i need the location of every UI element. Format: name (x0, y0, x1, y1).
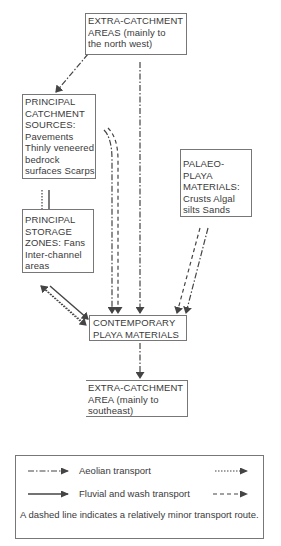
node-text: PRINCIPAL (25, 96, 93, 108)
node-text: CONTEMPORARY (93, 317, 183, 329)
legend: Aeolian transport Fluvial and wash trans… (15, 455, 264, 539)
arrow-palaeo-to-playa-aeolian (186, 228, 208, 313)
node-text: SOURCES: (25, 119, 93, 131)
node-text: the north west) (88, 38, 184, 50)
node-contemporary-playa: CONTEMPORARY PLAYA MATERIALS (89, 315, 187, 341)
arrow-playa-to-storage-aeolian (41, 286, 80, 321)
arrow-nw-to-catchment (56, 54, 88, 92)
arrow-storage-to-playa-fluvial (50, 286, 88, 319)
node-text: areas (25, 260, 91, 272)
node-text: surfaces Scarps (25, 165, 93, 177)
node-text: MATERIALS: (183, 181, 249, 193)
node-text: PLAYA MATERIALS (93, 329, 183, 341)
node-text: silts Sands (183, 204, 249, 216)
legend-fluvial-label: Fluvial and wash transport (79, 488, 190, 499)
node-palaeo-playa: PALAEO- PLAYA MATERIALS: Crusts Algal si… (180, 149, 252, 217)
node-text: PALAEO- (183, 158, 249, 170)
node-text: AREAS (mainly to (88, 27, 184, 39)
node-principal-catchment: PRINCIPAL CATCHMENT SOURCES: Pavements T… (22, 94, 96, 179)
node-text: EXTRA-CATCHMENT (88, 382, 185, 394)
arrow-storage-to-playa-aeolian (46, 290, 86, 325)
node-extra-catchment-nw: EXTRA-CATCHMENT AREAS (mainly to the nor… (85, 13, 187, 55)
node-text: PRINCIPAL (25, 214, 91, 226)
node-text: bedrock (25, 154, 93, 166)
node-text: PLAYA (183, 170, 249, 182)
node-text: ZONES: Fans (25, 237, 91, 249)
node-principal-storage: PRINCIPAL STORAGE ZONES: Fans Inter-chan… (22, 209, 94, 273)
node-text: Pavements (25, 131, 93, 143)
node-text: AREA (mainly to (88, 394, 185, 406)
node-text: CATCHMENT (25, 108, 93, 120)
arrow-catchment-to-playa-aeolian (104, 130, 112, 313)
node-text: southeast) (88, 405, 185, 417)
arrow-catchment-to-playa-fluvial (108, 128, 118, 313)
legend-note: A dashed line indicates a relatively min… (20, 509, 260, 521)
node-text: Crusts Algal (183, 193, 249, 205)
node-text: EXTRA-CATCHMENT (88, 15, 184, 27)
node-extra-catchment-se: EXTRA-CATCHMENT AREA (mainly to southeas… (86, 380, 188, 417)
node-text: STORAGE (25, 226, 91, 238)
legend-aeolian-label: Aeolian transport (79, 465, 151, 476)
arrow-palaeo-to-playa-fluvial (177, 228, 200, 313)
node-text: Thinly veneered (25, 142, 93, 154)
node-text: Inter-channel (25, 249, 91, 261)
